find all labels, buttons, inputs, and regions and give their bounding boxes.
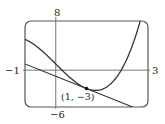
curve-line xyxy=(25,0,148,90)
chart-plot xyxy=(0,0,165,124)
x-min-label: −1 xyxy=(5,66,20,76)
x-max-label: 3 xyxy=(152,66,158,76)
tangent-point-dot xyxy=(85,87,89,91)
point-annotation: (1, −3) xyxy=(61,92,95,102)
y-max-label: 8 xyxy=(54,8,60,18)
y-min-label: −6 xyxy=(50,110,65,120)
